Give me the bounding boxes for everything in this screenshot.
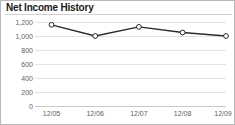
net-income-history-chart-widget: Net Income History 1,200 1,000 800 600 4…	[0, 0, 235, 125]
y-tick-label: 200	[0, 89, 33, 96]
data-point-12-05	[49, 22, 54, 27]
title-divider	[5, 14, 232, 15]
data-point-12-08	[180, 30, 185, 35]
plot-area	[35, 22, 226, 106]
x-tick-label: 12/07	[130, 110, 148, 117]
x-tick-label: 12/09	[214, 110, 232, 117]
y-tick-label: 1,000	[0, 33, 33, 40]
y-tick-label: 1,200	[0, 19, 33, 26]
series-svg	[35, 22, 226, 106]
data-point-12-09	[224, 34, 229, 39]
y-tick-label: 0	[0, 103, 33, 110]
x-tick-label: 12/08	[174, 110, 192, 117]
gridline-0	[35, 106, 226, 107]
data-point-12-07	[137, 25, 142, 30]
y-tick-label: 600	[0, 61, 33, 68]
y-tick-label: 400	[0, 75, 33, 82]
y-tick-label: 800	[0, 47, 33, 54]
data-point-12-06	[93, 34, 98, 39]
x-tick-label: 12/06	[86, 110, 104, 117]
x-tick-label: 12/05	[43, 110, 61, 117]
page-title: Net Income History	[6, 2, 94, 13]
